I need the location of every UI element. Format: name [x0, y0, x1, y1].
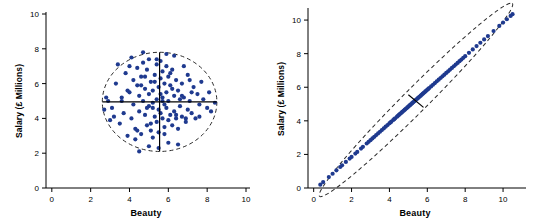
svg-text:10: 10 [242, 195, 251, 204]
svg-text:10: 10 [292, 16, 301, 25]
svg-text:0: 0 [50, 195, 55, 204]
svg-text:6: 6 [166, 195, 171, 204]
svg-text:6: 6 [425, 195, 430, 204]
scatter-plot-right: 02468100246810 [272, 0, 540, 222]
svg-text:8: 8 [35, 45, 40, 54]
svg-text:2: 2 [349, 195, 354, 204]
figure-container: Salary (£ Millions) Beauty 0246810024681… [0, 0, 541, 222]
svg-text:2: 2 [297, 150, 302, 159]
chart-panel-left: Salary (£ Millions) Beauty 0246810024681… [0, 0, 268, 222]
svg-text:8: 8 [463, 195, 468, 204]
svg-text:4: 4 [35, 114, 40, 123]
svg-text:6: 6 [35, 80, 40, 89]
svg-text:0: 0 [297, 184, 302, 193]
svg-text:4: 4 [297, 117, 302, 126]
svg-text:4: 4 [127, 195, 132, 204]
svg-text:2: 2 [35, 149, 40, 158]
svg-text:6: 6 [297, 83, 302, 92]
svg-text:8: 8 [297, 50, 302, 59]
svg-text:8: 8 [205, 195, 210, 204]
svg-text:10: 10 [499, 195, 508, 204]
svg-text:4: 4 [387, 195, 392, 204]
svg-text:10: 10 [30, 10, 39, 19]
svg-text:2: 2 [88, 195, 93, 204]
scatter-plot-left: 02468100246810 [0, 0, 268, 222]
chart-panel-right: Salary (£ Millions) Beauty 0246810024681… [272, 0, 540, 222]
svg-text:0: 0 [311, 195, 316, 204]
svg-text:0: 0 [35, 184, 40, 193]
